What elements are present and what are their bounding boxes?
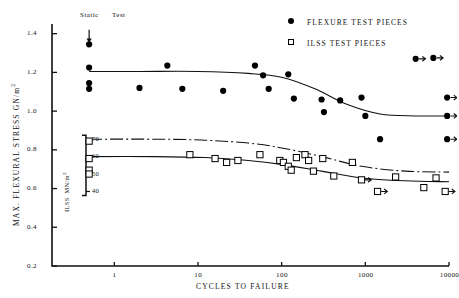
runout-arrow-icon (451, 137, 457, 142)
y-axis-tick-label: 0.4 (27, 224, 37, 231)
data-point-open-square (212, 155, 218, 161)
data-point-open-square (302, 152, 308, 158)
data-point-open-square (257, 152, 263, 158)
data-point-open-square (235, 157, 241, 163)
ilss-axis-tick-label: 70 (92, 136, 99, 143)
data-point-filled-circle (252, 63, 258, 69)
data-point-filled-circle (291, 95, 297, 101)
runout-arrow-icon (419, 56, 425, 61)
data-point-open-square (293, 154, 299, 160)
data-point-open-square (306, 157, 312, 163)
data-point-filled-circle (136, 85, 142, 91)
data-point-open-square (331, 173, 337, 179)
y-axis-tick-label: 0.6 (27, 185, 37, 192)
data-point-filled-circle (337, 97, 343, 103)
runout-arrow-icon (449, 189, 455, 194)
data-point-filled-circle (260, 72, 266, 78)
y-axis-tick-label: 1.4 (27, 30, 37, 37)
data-point-open-square (392, 174, 398, 180)
data-point-open-square (187, 152, 193, 158)
data-point-filled-circle (86, 41, 92, 47)
ilss-axis-tick-label: 50 (92, 171, 99, 178)
data-point-filled-circle (86, 80, 92, 86)
data-point-filled-circle (444, 113, 450, 119)
data-point-filled-circle (413, 56, 419, 62)
data-point-filled-circle (164, 63, 170, 69)
data-point-filled-circle (86, 86, 92, 92)
y-axis-tick-label: 1.0 (27, 108, 37, 115)
y-axis-tick-label: 0.2 (27, 263, 37, 270)
data-point-open-square (349, 159, 355, 165)
data-point-filled-circle (220, 88, 226, 94)
data-point-open-square (320, 155, 326, 161)
y-axis-tick-label: 0.8 (27, 146, 37, 153)
ilss-axis-tick-label: 60 (92, 153, 99, 160)
x-axis-tick-label: 10000 (440, 272, 459, 279)
data-point-filled-circle (444, 94, 450, 100)
data-point-filled-circle (377, 136, 383, 142)
x-axis-tick-label: 100 (276, 272, 288, 279)
y-axis-tick-label: 1.2 (27, 69, 37, 76)
data-point-filled-circle (86, 64, 92, 70)
ilss-axis-tick-label: 40 (92, 188, 99, 195)
data-point-filled-circle (179, 86, 185, 92)
data-point-filled-circle (318, 96, 324, 102)
data-point-open-square (433, 175, 439, 181)
data-point-open-square (421, 184, 427, 190)
data-point-open-square (224, 159, 230, 165)
x-axis-tick-label: 1000 (358, 272, 374, 279)
data-point-filled-circle (430, 55, 436, 61)
data-point-open-square (288, 167, 294, 173)
data-point-filled-circle (362, 113, 368, 119)
runout-arrow-icon (451, 95, 457, 100)
data-point-open-square (374, 188, 380, 194)
data-point-filled-circle (358, 94, 364, 100)
runout-arrow-icon (381, 189, 387, 194)
data-point-filled-circle (321, 109, 327, 115)
data-point-open-square (310, 168, 316, 174)
data-point-filled-circle (444, 136, 450, 142)
ilss-upper-fit-curve (89, 139, 449, 172)
data-point-open-square (442, 188, 448, 194)
data-point-filled-circle (285, 71, 291, 77)
flexure-fit-curve (89, 71, 449, 116)
data-point-filled-circle (266, 86, 272, 92)
x-axis-tick-label: 1 (112, 272, 116, 279)
runout-arrow-icon (437, 55, 443, 60)
x-axis-tick-label: 10 (194, 272, 202, 279)
runout-arrow-icon (451, 114, 457, 119)
data-point-open-square (358, 177, 364, 183)
